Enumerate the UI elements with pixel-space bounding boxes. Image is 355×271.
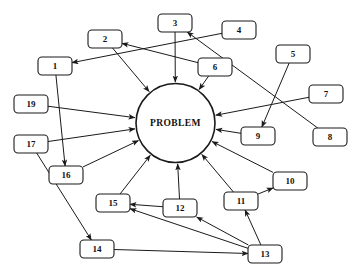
node-label-1: 1 [53, 61, 58, 71]
center-node-group: PROBLEM [136, 84, 215, 163]
edge-6-to-center [199, 76, 209, 90]
node-box-11[interactable]: 11 [224, 192, 258, 210]
edge-12-to-center [178, 164, 180, 199]
node-label-14: 14 [93, 244, 103, 254]
node-label-4: 4 [237, 25, 242, 35]
edge-9-to-center [216, 129, 241, 133]
node-box-15[interactable]: 15 [96, 194, 130, 212]
node-label-11: 11 [237, 196, 246, 206]
edge-5-to-9 [262, 63, 289, 127]
node-label-8: 8 [328, 132, 333, 142]
node-box-9[interactable]: 9 [241, 127, 275, 145]
node-box-5[interactable]: 5 [276, 45, 310, 63]
node-box-7[interactable]: 7 [309, 85, 343, 103]
node-box-16[interactable]: 16 [49, 166, 83, 184]
node-box-10[interactable]: 10 [273, 172, 307, 190]
node-box-1[interactable]: 1 [38, 57, 72, 75]
problem-label: PROBLEM [150, 118, 201, 128]
node-box-4[interactable]: 4 [222, 21, 256, 39]
node-label-7: 7 [324, 89, 329, 99]
edge-10-to-center [212, 142, 273, 173]
node-box-12[interactable]: 12 [163, 199, 197, 217]
spider-diagram-canvas: 123456789101112131415161719 PROBLEM [0, 0, 355, 271]
node-label-9: 9 [256, 131, 261, 141]
edge-16-to-center [83, 141, 138, 167]
edge-14-to-13 [114, 250, 248, 254]
node-box-2[interactable]: 2 [88, 30, 122, 48]
diagram-svg: 123456789101112131415161719 PROBLEM [0, 0, 355, 271]
node-box-17[interactable]: 17 [14, 135, 48, 153]
edge-6-to-2 [122, 43, 198, 62]
node-label-15: 15 [109, 198, 119, 208]
edge-12-to-15 [130, 204, 163, 206]
node-label-3: 3 [173, 18, 178, 28]
node-box-19[interactable]: 19 [14, 95, 48, 113]
node-label-12: 12 [176, 203, 186, 213]
edge-1-to-16 [56, 75, 65, 166]
node-label-19: 19 [27, 99, 37, 109]
node-label-17: 17 [27, 139, 37, 149]
node-box-8[interactable]: 8 [313, 128, 347, 146]
node-box-6[interactable]: 6 [198, 58, 232, 76]
node-box-13[interactable]: 13 [248, 245, 282, 263]
node-label-5: 5 [291, 49, 296, 59]
node-box-14[interactable]: 14 [80, 240, 114, 258]
node-label-2: 2 [103, 34, 108, 44]
edge-2-to-center [113, 48, 150, 92]
node-label-10: 10 [286, 176, 296, 186]
node-label-16: 16 [62, 170, 72, 180]
node-label-13: 13 [261, 249, 271, 259]
edge-15-to-center [120, 155, 150, 194]
edge-11-to-center [202, 154, 234, 192]
edge-13-to-11 [245, 210, 261, 245]
edge-19-to-center [48, 106, 135, 117]
edge-7-to-center [216, 97, 309, 115]
node-label-6: 6 [213, 62, 218, 72]
node-box-3[interactable]: 3 [158, 14, 192, 32]
edge-13-to-12 [197, 217, 249, 245]
edge-11-to-10 [258, 188, 273, 194]
